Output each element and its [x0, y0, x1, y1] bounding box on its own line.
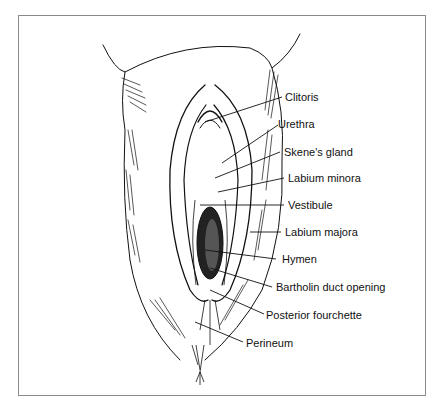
label-labium-minora: Labium minora: [288, 172, 361, 184]
label-posterior-fourchette: Posterior fourchette: [266, 309, 362, 321]
label-hymen: Hymen: [282, 253, 317, 265]
label-skenes-gland: Skene's gland: [284, 146, 353, 158]
label-clitoris: Clitoris: [285, 91, 319, 103]
label-vestibule: Vestibule: [288, 199, 333, 211]
label-bartholin-duct-opening: Bartholin duct opening: [276, 281, 385, 293]
anatomical-illustration: [0, 0, 444, 406]
label-labium-majora: Labium majora: [285, 226, 358, 238]
label-urethra: Urethra: [278, 118, 315, 130]
label-perineum: Perineum: [246, 337, 293, 349]
